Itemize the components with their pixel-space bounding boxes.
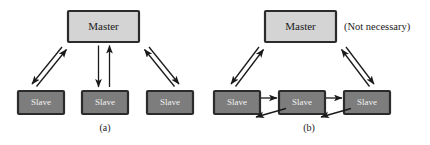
panel-b-link-slave1-master bbox=[231, 47, 264, 87]
panel-a-arrow-master-to-slave1 bbox=[32, 47, 62, 84]
panel-b-slave-2-node[interactable]: Slave bbox=[279, 91, 325, 114]
panel-a-link-slave2-master bbox=[99, 46, 110, 88]
panel-a-slave-2-node[interactable]: Slave bbox=[82, 91, 128, 114]
panel-b-slave-3-label: Slave bbox=[357, 97, 377, 107]
panel-b-arrow-slave1-to-master bbox=[236, 50, 264, 87]
panel-a-slave-3-label: Slave bbox=[160, 97, 180, 107]
panel-b-note-label: (Not necessary) bbox=[344, 21, 411, 33]
panel-b-master-node[interactable]: Master bbox=[265, 11, 336, 42]
panel-a-slave-2-label: Slave bbox=[95, 97, 115, 107]
panel-a: Master Slave Slave Slave bbox=[18, 11, 193, 134]
panel-b-arrow-master-to-slave3 bbox=[346, 47, 374, 84]
panel-b-arrow-master-to-slave1 bbox=[231, 47, 259, 84]
panel-b-master-label: Master bbox=[285, 20, 316, 32]
panel-b: Master (Not necessary) Slave Slave Slave bbox=[214, 11, 411, 134]
panel-a-arrow-slave3-to-master bbox=[145, 50, 175, 87]
panel-a-link-slave3-master bbox=[145, 47, 180, 87]
panel-a-slave-1-label: Slave bbox=[31, 97, 51, 107]
panel-b-slave-1-label: Slave bbox=[227, 97, 247, 107]
panel-b-slave-3-node[interactable]: Slave bbox=[344, 91, 390, 114]
panel-a-slave-3-node[interactable]: Slave bbox=[147, 91, 193, 114]
panel-b-caption: (b) bbox=[303, 122, 315, 134]
panel-a-link-slave1-master bbox=[32, 47, 67, 87]
panel-a-arrow-slave1-to-master bbox=[37, 50, 67, 87]
diagram-canvas: Master Slave Slave Slave bbox=[0, 0, 430, 145]
panel-b-slave-2-label: Slave bbox=[292, 97, 312, 107]
panel-a-arrow-master-to-slave3 bbox=[149, 47, 179, 84]
panel-a-master-node[interactable]: Master bbox=[68, 11, 139, 42]
panel-b-arrow-slave3-to-master bbox=[342, 50, 370, 87]
panel-a-slave-1-node[interactable]: Slave bbox=[18, 91, 64, 114]
panel-a-master-label: Master bbox=[88, 20, 119, 32]
figure-root: Master Slave Slave Slave bbox=[0, 0, 430, 145]
panel-b-slave-1-node[interactable]: Slave bbox=[214, 91, 260, 114]
panel-a-caption: (a) bbox=[99, 122, 110, 134]
panel-b-link-slave3-master bbox=[342, 47, 375, 87]
